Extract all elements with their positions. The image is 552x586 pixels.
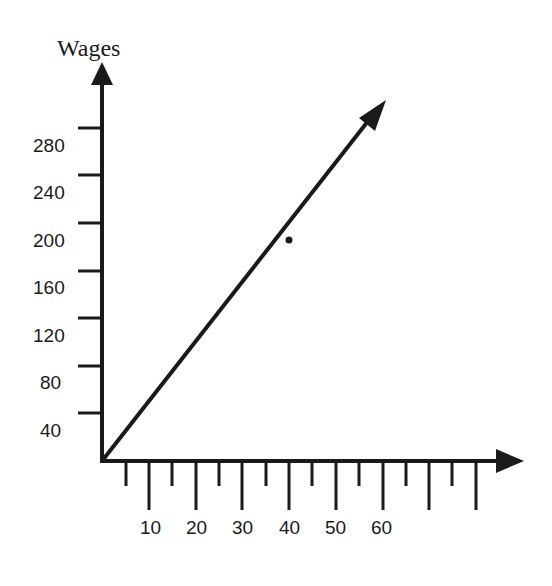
x-tick-label: 40 [279,517,300,538]
y-ticks [78,128,102,413]
x-axis-arrowhead-icon [496,449,524,473]
x-tick-label: 50 [325,517,346,538]
y-tick-label: 200 [33,230,65,251]
wages-line [102,116,372,461]
y-axis-arrowhead-icon [91,62,113,85]
y-tick-label: 240 [33,182,65,203]
x-tick-labels: 10 20 30 40 50 60 [140,517,392,538]
x-tick-label: 60 [371,517,392,538]
x-tick-label: 20 [186,517,207,538]
wages-chart: 280 240 200 160 120 80 40 10 20 30 40 50… [0,0,552,586]
y-tick-label: 280 [33,135,65,156]
y-tick-label: 40 [40,420,61,441]
marked-point [286,237,293,244]
y-axis-title: Wages [57,35,120,61]
y-tick-label: 80 [40,372,61,393]
y-tick-label: 120 [33,325,65,346]
y-tick-label: 160 [33,277,65,298]
y-tick-labels: 280 240 200 160 120 80 40 [33,135,65,441]
x-tick-label: 10 [140,517,161,538]
x-tick-label: 30 [232,517,253,538]
